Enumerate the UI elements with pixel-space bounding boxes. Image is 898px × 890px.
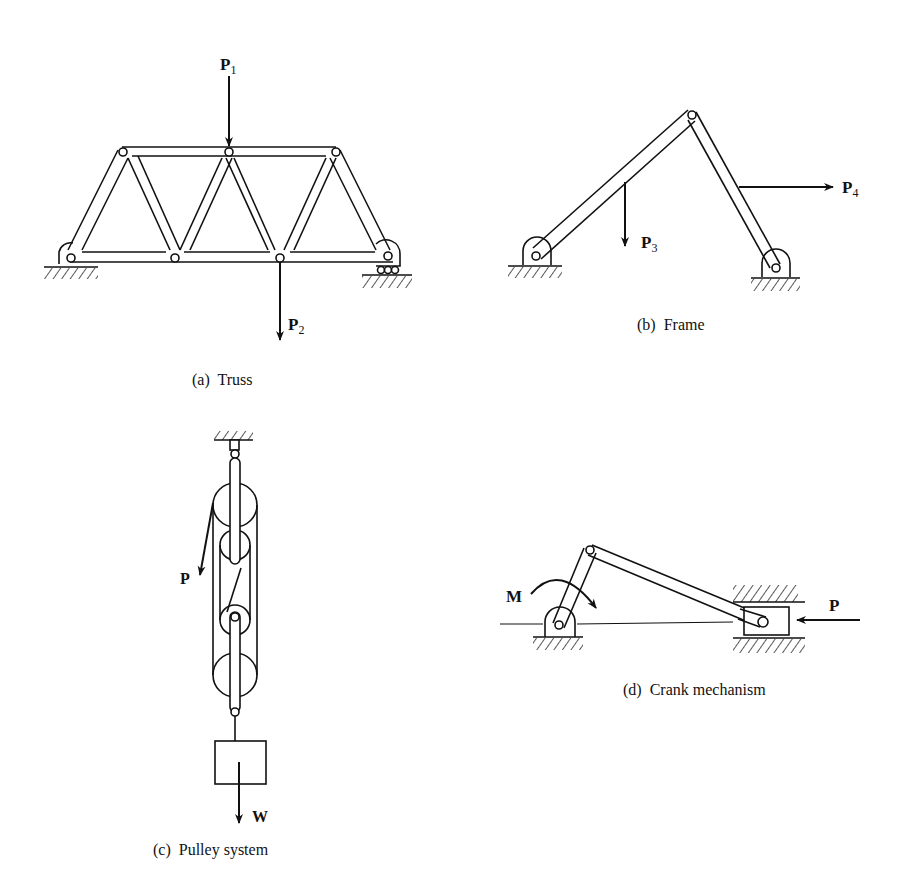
load-p2-label: P2 bbox=[288, 315, 304, 337]
pulley-panel bbox=[200, 431, 266, 823]
load-p-arrow bbox=[200, 503, 213, 575]
roller-support-right bbox=[362, 240, 412, 288]
caption-pulley: (c) Pulley system bbox=[153, 841, 269, 859]
load-p1-label: P1 bbox=[220, 55, 236, 77]
moment-m-label: M bbox=[506, 587, 522, 606]
caption-frame: (b) Frame bbox=[637, 316, 705, 334]
truss-panel bbox=[44, 76, 412, 340]
moment-m-arrow bbox=[531, 580, 596, 608]
frame-apex-pin bbox=[688, 111, 696, 119]
load-p-label: P bbox=[829, 596, 839, 615]
upper-block-strap bbox=[230, 458, 240, 564]
frame-panel bbox=[508, 110, 833, 291]
weight-block bbox=[215, 741, 266, 784]
pin-support-left bbox=[508, 237, 562, 278]
caption-truss: (a) Truss bbox=[192, 371, 252, 389]
ceiling-support bbox=[214, 431, 253, 440]
load-w-label: W bbox=[252, 808, 268, 825]
mechanics-figure: P1 P2 (a) Truss P3 P4 (b) Frame bbox=[0, 0, 898, 890]
load-p-label: P bbox=[180, 570, 190, 587]
slider-pin bbox=[758, 617, 768, 627]
crank-panel bbox=[500, 545, 860, 653]
caption-crank: (d) Crank mechanism bbox=[623, 681, 766, 699]
load-p3-label: P3 bbox=[641, 233, 657, 255]
crank-pin bbox=[586, 546, 594, 554]
lower-block-strap bbox=[230, 612, 240, 712]
truss-members bbox=[68, 147, 393, 262]
load-p4-label: P4 bbox=[842, 178, 858, 200]
